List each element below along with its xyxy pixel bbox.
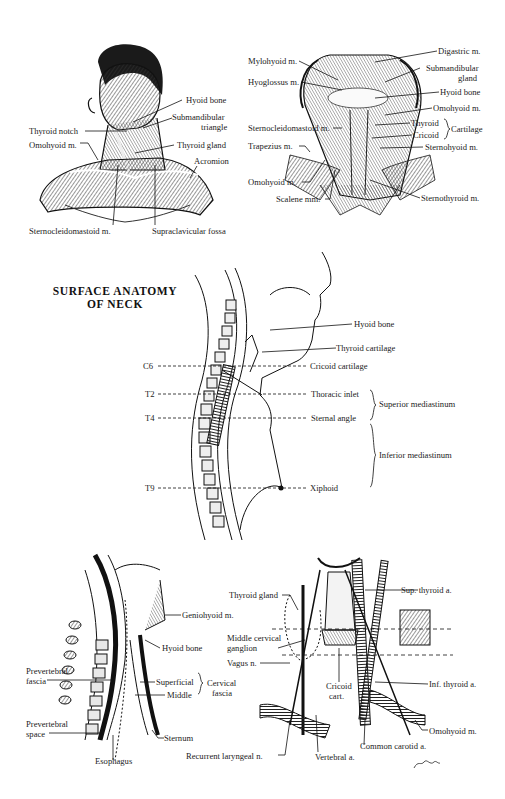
- label-omohyoid: Omohyoid m.: [429, 726, 477, 736]
- label-omohyoid-lower: Omohyoid m.: [248, 177, 296, 187]
- label-esophagus: Esophagus: [95, 756, 132, 766]
- label-hyoid-bone: Hyoid bone: [186, 95, 226, 105]
- label-sternothyroid: Sternothyroid m.: [421, 193, 479, 203]
- label-middle-cervical-ganglion-2: ganglion: [227, 643, 257, 653]
- label-thyroid-gland: Thyroid gland: [177, 140, 226, 150]
- label-superior-mediastinum: Superior mediastinum: [379, 399, 455, 409]
- label-cricoid-cart-1: Cricoid: [326, 681, 352, 691]
- label-submandibular-gland-1: Submandibular: [426, 63, 479, 73]
- label-trapezius: Trapezius m.: [248, 141, 293, 151]
- label-hyoglossus: Hyoglossus m.: [248, 77, 299, 87]
- label-thyroid-cartilage: Thyroid cartilage: [336, 343, 395, 353]
- label-submandibular-gland-2: gland: [458, 73, 477, 83]
- label-vertebral-a: Vertebral a.: [315, 752, 355, 762]
- label-acromion: Acromion: [194, 156, 229, 166]
- label-sternum: Sternum: [164, 733, 193, 743]
- label-geniohyoid: Geniohyoid m.: [182, 610, 234, 620]
- label-submandibular-triangle-2: triangle: [201, 122, 227, 132]
- label-cricoid-cartilage: Cricoid cartilage: [310, 361, 368, 371]
- level-t9: T9: [145, 483, 155, 493]
- title-line-1: SURFACE ANATOMY: [40, 285, 190, 298]
- level-t2: T2: [145, 389, 155, 399]
- label-submandibular-triangle-1: Submandibular: [172, 112, 225, 122]
- label-omohyoid-upper: Omohyoid m.: [433, 103, 481, 113]
- label-supraclavicular-fossa: Supraclavicular fossa: [152, 226, 226, 236]
- label-thyroid-notch: Thyroid notch: [29, 126, 78, 136]
- label-mylohyoid: Mylohyoid m.: [248, 56, 297, 66]
- label-xiphoid: Xiphoid: [310, 483, 338, 493]
- label-hyoid-bone: Hyoid bone: [162, 643, 202, 653]
- label-cervical-fascia-1: Cervical: [207, 678, 236, 688]
- level-t4: T4: [145, 413, 155, 423]
- label-sternal-angle: Sternal angle: [311, 413, 356, 423]
- label-cartilage: Cartilage: [451, 124, 483, 134]
- label-sternohyoid: Sternohyoid m.: [425, 142, 478, 152]
- label-middle: Middle: [167, 690, 192, 700]
- label-prevertebral-space-1: Prevertebral: [26, 719, 68, 729]
- label-thoracic-inlet: Thoracic inlet: [311, 389, 359, 399]
- label-thyroid: Thyroid: [411, 118, 439, 128]
- inferior-mediastinum-brace: [370, 424, 376, 487]
- label-prevertebral-fascia-2: fascia: [26, 676, 46, 686]
- fascia-illustration: [59, 555, 165, 760]
- label-superficial: Superficial: [156, 677, 194, 687]
- label-sup-thyroid-a: Sup. thyroid a.: [401, 585, 452, 595]
- label-cricoid-cart-2: cart.: [329, 691, 344, 701]
- label-sternocleidomastoid: Sternocleidomastoid m.: [248, 123, 330, 133]
- cervical-fascia-brace: [198, 673, 203, 694]
- artist-signature: [414, 761, 440, 768]
- label-hyoid-bone: Hyoid bone: [354, 319, 394, 329]
- sagittal-level-lines: [158, 366, 308, 488]
- level-c6: C6: [143, 361, 153, 371]
- label-common-carotid: Common carotid a.: [360, 741, 426, 751]
- label-thyroid-gland: Thyroid gland: [229, 590, 278, 600]
- cartilage-brace: [444, 119, 450, 139]
- superior-mediastinum-brace: [370, 390, 376, 420]
- label-hyoid-bone: Hyoid bone: [440, 87, 480, 97]
- label-cricoid: Cricoid: [413, 130, 439, 140]
- label-middle-cervical-ganglion-1: Middle cervical: [227, 633, 281, 643]
- label-sternocleidomastoid: Sternocleidomastoid m.: [29, 226, 111, 236]
- label-recurrent-laryngeal: Recurrent laryngeal n.: [186, 751, 263, 761]
- label-inferior-mediastinum: Inferior mediastinum: [379, 450, 452, 460]
- label-vagus: Vagus n.: [227, 658, 257, 668]
- label-inf-thyroid-a: Inf. thyroid a.: [429, 679, 476, 689]
- label-prevertebral-space-2: space: [26, 729, 45, 739]
- label-omohyoid: Omohyoid m.: [29, 140, 77, 150]
- label-prevertebral-fascia-1: Prevertebral: [26, 666, 68, 676]
- label-digastric: Digastric m.: [438, 46, 480, 56]
- title-line-2: OF NECK: [40, 298, 190, 311]
- label-cervical-fascia-2: fascia: [212, 688, 232, 698]
- sagittal-illustration: [191, 252, 330, 540]
- diagram-title: SURFACE ANATOMY OF NECK: [40, 285, 190, 311]
- label-scalene: Scalene mm.: [276, 194, 320, 204]
